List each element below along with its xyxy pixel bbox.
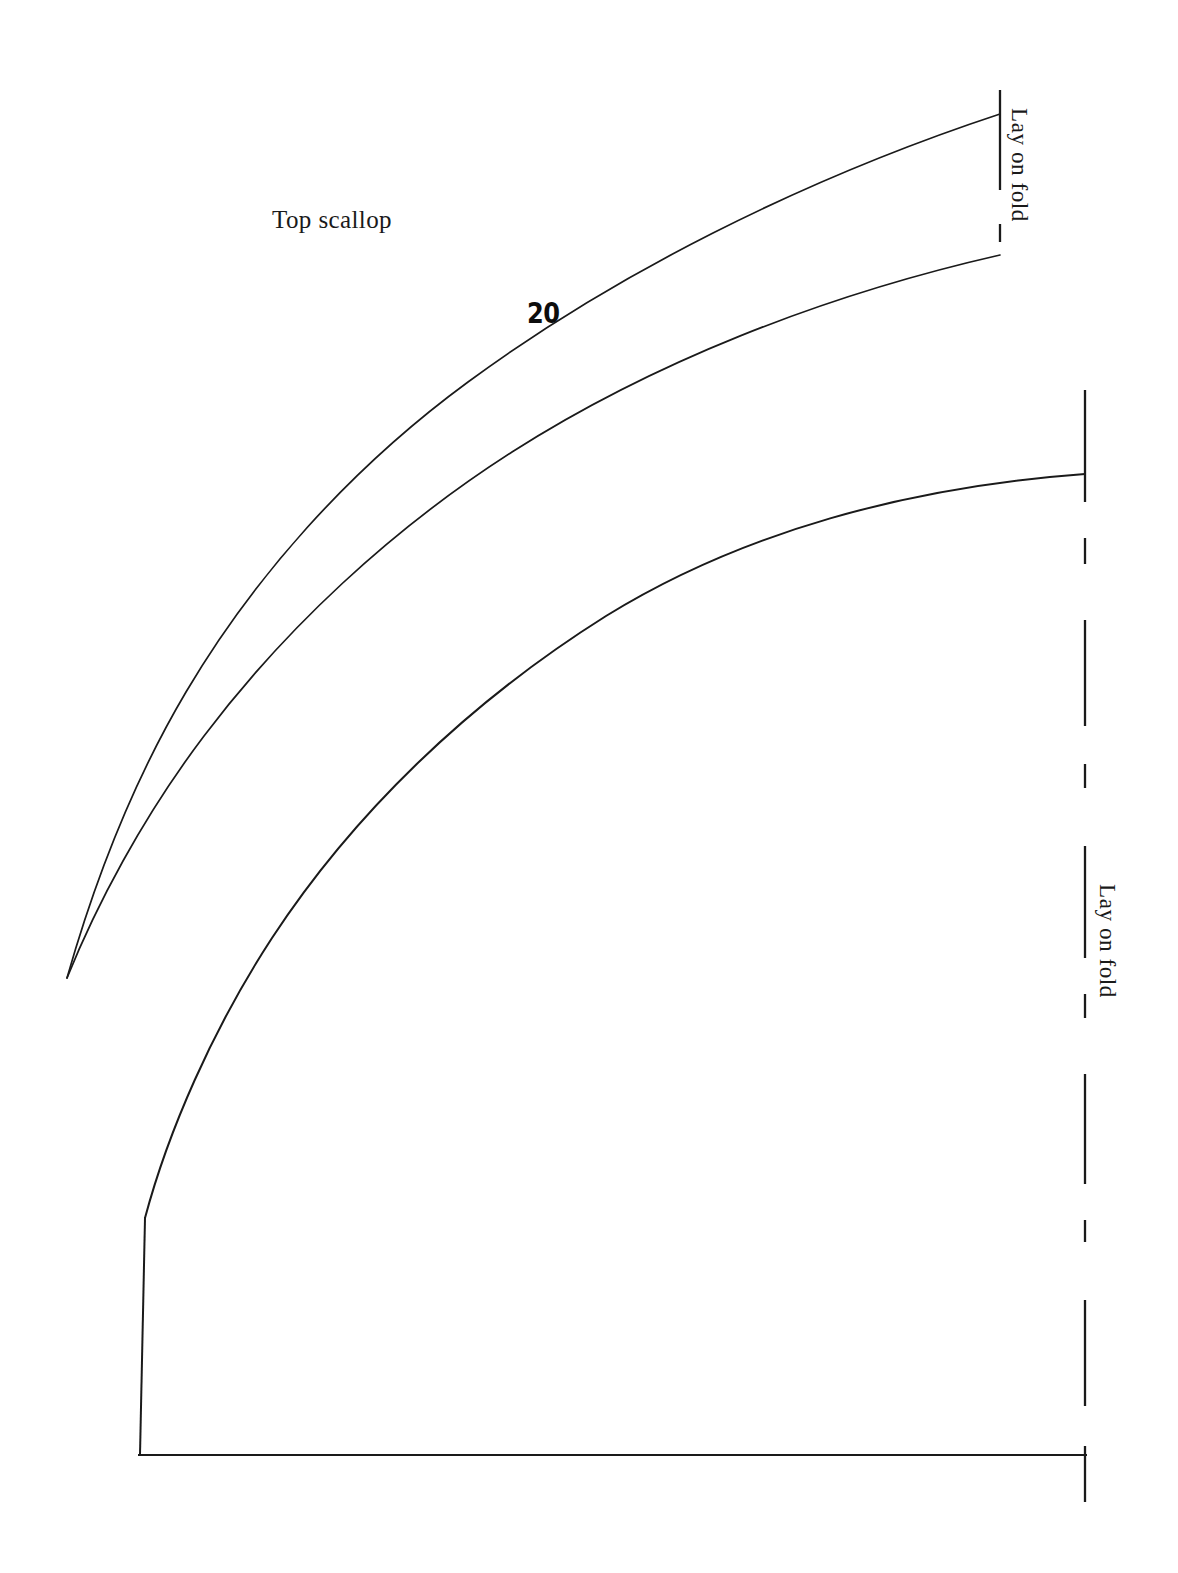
pattern-linework [0,0,1178,1573]
lower-body-edge-path [145,474,1085,1218]
label-lay-on-fold-bottom: Lay on fold [1094,884,1120,998]
pattern-diagram: Top scallop 20 Lay on fold Lay on fold [0,0,1178,1573]
left-straight-edge-path [140,1218,145,1455]
inner-scallop-edge-path [67,255,1000,978]
label-top-scallop: Top scallop [272,206,392,234]
outer-scallop-edge-path [67,114,1000,978]
label-lay-on-fold-top: Lay on fold [1006,108,1032,222]
label-measurement-20: 20 [527,297,560,330]
